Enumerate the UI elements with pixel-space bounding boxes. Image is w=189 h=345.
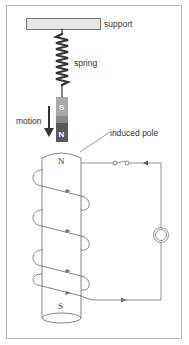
induced-pole-label: induced pole [110,128,158,138]
solenoid-north-pole: N [58,156,65,166]
solenoid-south-pole: S [58,301,63,311]
galvanometer-icon [154,228,169,243]
support-label: support [104,19,133,29]
motion-label: motion [16,116,42,126]
spring-label: spring [74,58,97,68]
magnet-north-pole: N [59,130,65,139]
outer-frame [7,6,182,339]
support-bar [27,19,101,30]
electromagnetic-induction-diagram: support spring S N motion induced pole N… [0,0,189,345]
magnet-south-pole: S [59,103,65,112]
